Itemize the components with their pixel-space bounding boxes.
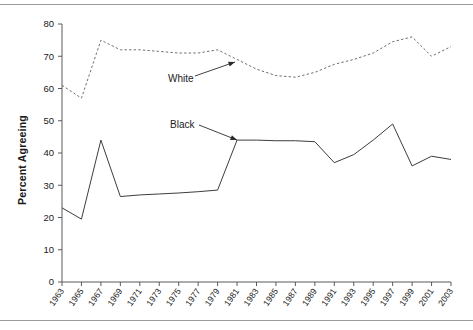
- y-tick-label: 10: [43, 244, 54, 255]
- series-lines: [62, 37, 451, 219]
- y-tick-label: 40: [43, 147, 54, 158]
- series-line-white: [62, 37, 451, 98]
- x-tick-label: 1975: [164, 286, 183, 308]
- line-chart: 01020304050607080 1963196519671969197119…: [0, 0, 473, 330]
- x-tick-label: 1999: [397, 286, 416, 308]
- y-tick-label: 50: [43, 115, 54, 126]
- y-tick-label: 30: [43, 180, 54, 191]
- series-annotations: WhiteBlack: [168, 62, 237, 140]
- x-tick-label: 1963: [47, 286, 66, 308]
- annotation-label-white: White: [168, 73, 194, 84]
- y-tick-label: 60: [43, 83, 54, 94]
- x-tick-label: 1993: [339, 286, 358, 308]
- series-line-black: [62, 124, 451, 219]
- x-tick-label: 1995: [358, 286, 377, 308]
- x-tick-label: 1987: [280, 286, 299, 308]
- y-axis: 01020304050607080: [43, 18, 62, 287]
- x-tick-label: 1973: [144, 286, 163, 308]
- annotation-arrowhead: [228, 62, 235, 67]
- y-axis-title: Percent Agreeing: [16, 115, 28, 205]
- page-rule-top: [0, 4, 473, 5]
- x-tick-label: 1967: [86, 286, 105, 308]
- x-tick-label: 1969: [105, 286, 124, 308]
- x-tick-label: 1981: [222, 286, 241, 308]
- y-tick-label: 70: [43, 51, 54, 62]
- x-tick-label: 1977: [183, 286, 202, 308]
- y-tick-label: 20: [43, 212, 54, 223]
- page-rule-bottom: [0, 320, 473, 321]
- x-tick-label: 1983: [241, 286, 260, 308]
- x-tick-label: 1985: [261, 286, 280, 308]
- x-tick-label: 1965: [66, 286, 85, 308]
- y-tick-label: 80: [43, 18, 54, 29]
- x-axis: 1963196519671969197119731975197719791981…: [47, 282, 455, 308]
- x-tick-label: 2003: [436, 286, 455, 308]
- x-tick-label: 1971: [125, 286, 144, 308]
- x-tick-label: 1997: [378, 286, 397, 308]
- y-tick-label: 0: [49, 276, 54, 287]
- figure-canvas: 01020304050607080 1963196519671969197119…: [0, 0, 473, 330]
- x-tick-label: 1979: [203, 286, 222, 308]
- x-tick-label: 1991: [319, 286, 338, 308]
- annotation-arrowhead: [230, 135, 237, 140]
- x-tick-label: 2001: [417, 286, 436, 308]
- annotation-label-black: Black: [170, 119, 195, 130]
- x-tick-label: 1989: [300, 286, 319, 308]
